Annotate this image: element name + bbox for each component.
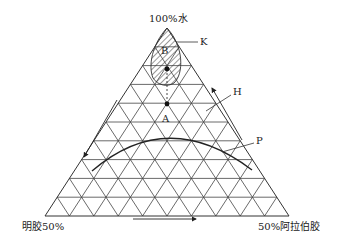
label-a: A [162, 114, 169, 124]
vertex-label-bottom-left: 明胶50% [22, 222, 64, 232]
point-b [165, 67, 170, 72]
hatched-region-k [151, 28, 181, 85]
vertex-label-bottom-right: 50%阿拉伯胶 [258, 222, 320, 232]
vertex-label-top: 100%水 [149, 14, 188, 24]
label-h: H [233, 87, 242, 97]
point-a [165, 102, 170, 107]
curve-p [92, 138, 252, 171]
label-b: B [161, 46, 168, 56]
label-p: P [256, 136, 263, 146]
arrow-left [84, 100, 117, 157]
label-k: K [200, 37, 207, 47]
